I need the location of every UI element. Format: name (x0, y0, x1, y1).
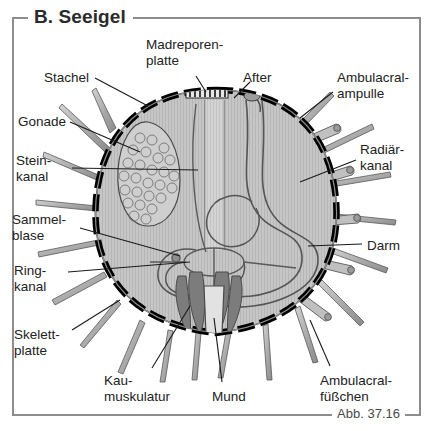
label-radiaerkanal: Radiär- kanal (360, 142, 404, 174)
mouth-opening (204, 286, 224, 334)
label-kaumuskulatur: Kau- muskulatur (104, 373, 170, 405)
label-skelettplatte: Skelett- platte (14, 327, 60, 359)
label-gonade: Gonade (18, 114, 66, 130)
label-ringkanal: Ring- kanal (14, 263, 46, 295)
label-stachel: Stachel (44, 70, 89, 86)
label-darm: Darm (367, 238, 400, 254)
label-ambulacralfuesschen: Ambulacral- füßchen (320, 373, 392, 405)
panel-title: B. Seeigel (30, 4, 130, 30)
label-ambulacralampulle: Ambulacral- ampulle (337, 70, 409, 102)
label-sammelblase: Sammel- blase (12, 212, 66, 244)
label-steinkanal: Stein- kanal (16, 153, 51, 185)
label-after: After (243, 70, 272, 86)
label-madreporenplatte: Madreporen- platte (146, 37, 223, 69)
figure-caption: Abb. 37.16 (332, 402, 405, 426)
label-mund: Mund (212, 389, 246, 405)
figure-panel: B. Seeigel Stachel Gonade Stein- kanal S… (0, 0, 433, 431)
